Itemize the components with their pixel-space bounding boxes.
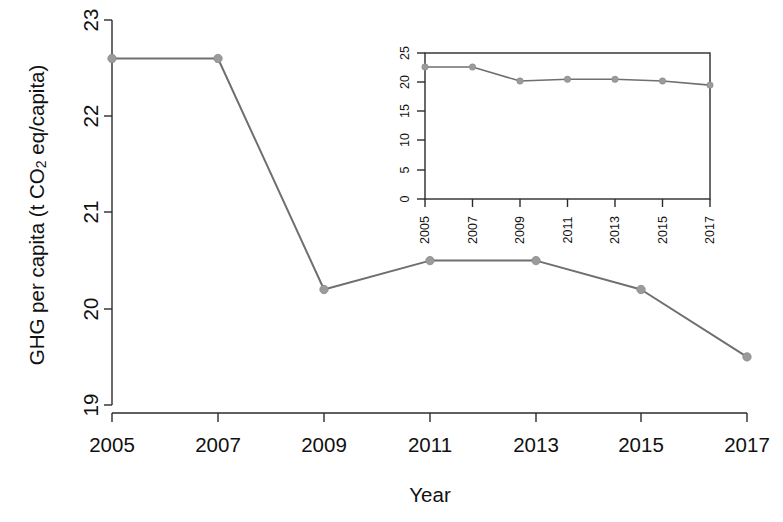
y-tick-label-23: 23: [79, 9, 102, 32]
inset-data-point-2009: [517, 78, 523, 84]
inset-frame: [425, 53, 710, 199]
inset-x-tick-label-2009: 2009: [513, 216, 527, 244]
inset-x-tick-label-2011: 2011: [561, 217, 575, 244]
chart-figure: 23 22 21 20 19 2005 2007 2009: [0, 0, 783, 522]
x-tick-label-2011: 2011: [408, 433, 452, 456]
data-point-2013: [532, 256, 540, 264]
inset-data-point-2011: [564, 76, 570, 82]
x-axis-tick-labels: 2005 2007 2009 2011 2013 2015 2017: [89, 433, 770, 456]
line-chart-svg: 23 22 21 20 19 2005 2007 2009: [0, 0, 783, 522]
x-tick-label-2013: 2013: [513, 433, 559, 456]
x-tick-label-2005: 2005: [89, 433, 135, 456]
inset-x-tick-label-2007: 2007: [466, 216, 480, 244]
data-point-2017: [743, 353, 751, 361]
inset-x-axis-ticks: [425, 199, 710, 207]
x-tick-label-2009: 2009: [301, 433, 347, 456]
y-axis-title-prefix: GHG per capita (t CO: [25, 168, 48, 365]
y-axis-title-suffix: eq/capita): [25, 65, 48, 161]
x-axis-title: Year: [409, 483, 451, 506]
y-tick-label-20: 20: [79, 298, 102, 321]
data-point-2007: [214, 54, 222, 62]
main-y-axis: 23 22 21 20 19: [79, 9, 113, 417]
inset-chart: 25 20 15 10 5 0 2005 2007 2009: [398, 46, 717, 244]
inset-data-point-2017: [707, 82, 713, 88]
inset-y-tick-label-25: 25: [398, 46, 412, 60]
data-point-2011: [426, 256, 434, 264]
y-axis-title: GHG per capita (t CO2 eq/capita): [25, 65, 50, 366]
inset-data-point-2015: [659, 78, 665, 84]
inset-y-tick-label-5: 5: [398, 166, 412, 173]
inset-data-point-2013: [612, 76, 618, 82]
inset-x-tick-label-2015: 2015: [656, 216, 670, 244]
inset-data-point-2005: [422, 64, 428, 70]
svg-text:GHG per capita (t CO2 eq/capit: GHG per capita (t CO2 eq/capita): [25, 65, 50, 366]
inset-x-tick-label-2013: 2013: [608, 216, 622, 244]
data-point-2005: [108, 54, 116, 62]
inset-x-axis-tick-labels: 2005 2007 2009 2011 2013 2015 2017: [418, 216, 717, 244]
inset-y-axis-tick-labels: 25 20 15 10 5 0: [398, 46, 412, 202]
inset-x-tick-label-2005: 2005: [418, 216, 432, 244]
y-tick-label-22: 22: [79, 105, 102, 128]
x-tick-label-2015: 2015: [618, 433, 664, 456]
y-axis-title-subscript: 2: [33, 160, 49, 168]
x-tick-label-2017: 2017: [724, 433, 770, 456]
x-axis-ticks: [112, 413, 747, 422]
main-x-axis: 2005 2007 2009 2011 2013 2015 2017: [89, 413, 770, 456]
x-tick-label-2007: 2007: [195, 433, 241, 456]
inset-x-tick-label-2017: 2017: [703, 216, 717, 244]
inset-y-tick-label-0: 0: [398, 195, 412, 202]
inset-y-tick-label-20: 20: [398, 75, 412, 89]
inset-y-tick-label-10: 10: [398, 133, 412, 147]
series-markers: [108, 54, 751, 361]
series-line-ghg-per-capita: [112, 59, 747, 357]
y-axis-tick-labels: 23 22 21 20 19: [79, 9, 102, 417]
y-tick-label-21: 21: [79, 201, 102, 224]
y-tick-label-19: 19: [79, 394, 102, 417]
inset-y-tick-label-15: 15: [398, 104, 412, 118]
data-point-2015: [637, 285, 645, 293]
data-point-2009: [320, 285, 328, 293]
y-axis-ticks: [104, 20, 112, 405]
inset-data-point-2007: [469, 64, 475, 70]
inset-y-axis-ticks: [417, 53, 425, 199]
